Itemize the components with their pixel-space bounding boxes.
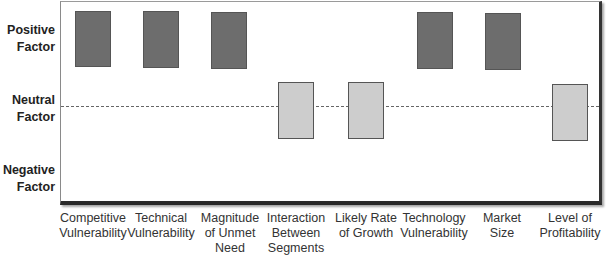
bar-market-size	[485, 13, 521, 70]
bar-level-of-profitability	[552, 84, 588, 141]
y-label-negative: Negative Factor	[3, 162, 55, 196]
x-label-level-of-profitability: Level of Profitability	[530, 211, 610, 241]
y-label-neutral: Neutral Factor	[12, 92, 55, 126]
x-label-interaction-between-segments: Interaction Between Segments	[256, 211, 336, 256]
x-label-technical-vulnerability: Technical Vulnerability	[121, 211, 201, 241]
bar-interaction-between-segments	[278, 82, 314, 139]
bar-magnitude-of-unmet-need	[211, 12, 247, 69]
bar-technology-vulnerability	[417, 12, 453, 69]
neutral-reference-line	[61, 106, 599, 107]
y-label-positive: Positive Factor	[7, 22, 55, 56]
bar-technical-vulnerability	[143, 11, 179, 68]
bar-competitive-vulnerability	[75, 11, 111, 67]
bar-likely-rate-of-growth	[348, 82, 384, 139]
